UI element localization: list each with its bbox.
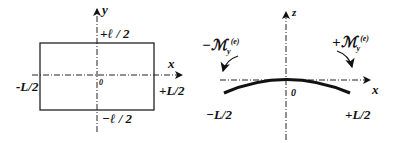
right-moment-arrow xyxy=(337,51,352,67)
right-edge-label: +L/2 xyxy=(159,84,184,97)
right-moment-label: +ℳy(e) xyxy=(332,35,369,53)
origin-label: 0 xyxy=(99,79,103,87)
bottom-edge-label: −ℓ / 2 xyxy=(102,112,132,125)
x-axis-label-right: x xyxy=(372,83,379,96)
top-edge-label: +ℓ / 2 xyxy=(100,27,130,40)
diagram-canvas xyxy=(0,0,396,143)
left-moment-label: −ℳy(e) xyxy=(202,38,240,56)
deflection-curve xyxy=(224,80,350,94)
z-axis-label: z xyxy=(292,7,296,18)
left-moment-arrow xyxy=(223,56,238,71)
left-end-label: −L/2 xyxy=(206,108,232,121)
right-end-label: +L/2 xyxy=(345,108,370,121)
origin-label-right: 0 xyxy=(291,88,296,98)
y-axis-label: y xyxy=(102,3,108,16)
x-axis-label: x xyxy=(168,57,175,70)
left-edge-label: -L/2 xyxy=(16,80,38,93)
